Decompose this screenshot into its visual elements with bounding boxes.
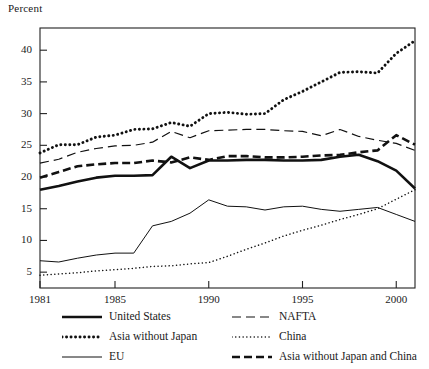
y-tick-label: 25: [8, 138, 32, 150]
chart-legend: United StatesAsia without JapanEU NAFTAC…: [0, 303, 429, 369]
y-tick-label: 5: [8, 265, 32, 277]
legend-label: China: [279, 331, 306, 343]
legend-item[interactable]: NAFTA: [232, 307, 428, 327]
legend-item[interactable]: Asia without Japan and China: [232, 347, 428, 367]
legend-item[interactable]: China: [232, 327, 428, 347]
axis-frame: [40, 28, 415, 288]
legend-line-swatch-icon: [62, 352, 102, 362]
series-lines: [40, 41, 415, 276]
legend-line-swatch-icon: [62, 312, 102, 322]
plot-area: [0, 0, 429, 300]
x-axis-ticks: [40, 281, 396, 288]
legend-item[interactable]: United States: [62, 307, 222, 327]
legend-line-swatch-icon: [232, 332, 272, 342]
y-tick-label: 40: [8, 43, 32, 55]
chart-container: Percent 510152025303540 1981198519901995…: [0, 0, 429, 369]
legend-label: Asia without Japan: [109, 331, 197, 343]
series-line: [40, 129, 415, 163]
series-line: [40, 200, 415, 262]
legend-label: Asia without Japan and China: [279, 351, 417, 363]
legend-item[interactable]: Asia without Japan: [62, 327, 222, 347]
y-tick-label: 35: [8, 75, 32, 87]
legend-label: NAFTA: [279, 311, 316, 323]
y-tick-label: 20: [8, 170, 32, 182]
y-tick-label: 30: [8, 107, 32, 119]
legend-column-right: NAFTAChinaAsia without Japan and China: [232, 307, 428, 367]
legend-item[interactable]: EU: [62, 347, 222, 367]
legend-label: United States: [109, 311, 171, 323]
y-axis-ticks: [40, 50, 47, 272]
series-line: [40, 135, 415, 177]
series-line: [40, 155, 415, 190]
legend-line-swatch-icon: [62, 332, 102, 342]
series-line: [40, 190, 415, 276]
y-tick-label: 10: [8, 233, 32, 245]
y-tick-label: 15: [8, 202, 32, 214]
legend-line-swatch-icon: [232, 312, 272, 322]
legend-column-left: United StatesAsia without JapanEU: [62, 307, 222, 367]
legend-line-swatch-icon: [232, 352, 272, 362]
legend-label: EU: [109, 351, 124, 363]
